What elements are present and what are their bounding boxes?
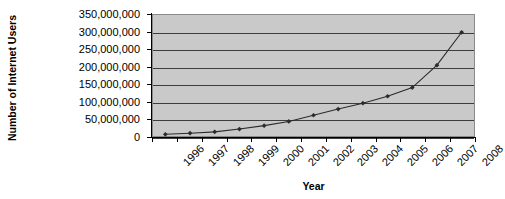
y-axis-tick-label: 150,000,000: [79, 79, 140, 90]
data-point-marker: [286, 119, 291, 124]
y-axis-tickmark: [147, 14, 151, 15]
x-axis-tickmark: [202, 138, 203, 142]
data-series-line: [153, 15, 474, 136]
y-axis-tick-label: 100,000,000: [79, 96, 140, 107]
x-axis-tick-label: 1997: [206, 143, 231, 168]
x-axis-tickmark: [450, 138, 451, 142]
x-axis-tick-label: 2002: [331, 143, 356, 168]
x-axis-tick-label: 2007: [455, 143, 480, 168]
y-axis-tickmark: [147, 49, 151, 50]
x-axis-tickmark: [351, 138, 352, 142]
x-axis-tick-label: 2006: [430, 143, 455, 168]
x-axis-tickmark: [152, 138, 153, 142]
x-axis-tickmark: [425, 138, 426, 142]
data-point-marker: [385, 94, 390, 99]
x-axis-tick-label: 1998: [231, 143, 256, 168]
x-axis-line: [151, 137, 476, 138]
y-axis-tickmark: [147, 102, 151, 103]
x-axis-tickmark: [326, 138, 327, 142]
x-axis-tick-label: 2004: [380, 143, 405, 168]
data-point-marker: [212, 129, 217, 134]
x-axis-tickmark: [301, 138, 302, 142]
x-axis-tick-label: 2005: [405, 143, 430, 168]
x-axis-tickmark: [177, 138, 178, 142]
y-axis-tickmark: [147, 32, 151, 33]
y-axis-title-label: Number of Internet Users: [6, 14, 18, 140]
x-axis-tick-label: 2000: [281, 143, 306, 168]
x-axis-tickmark: [276, 138, 277, 142]
data-point-marker: [360, 101, 365, 106]
data-point-marker: [163, 132, 168, 137]
series-line: [165, 32, 461, 134]
data-point-marker: [311, 113, 316, 118]
x-axis-tick-label: 2003: [356, 143, 381, 168]
plot-area: [152, 14, 475, 137]
data-point-marker: [237, 127, 242, 132]
x-axis-tickmark: [400, 138, 401, 142]
y-axis-tick-labels: 050,000,000100,000,000150,000,000200,000…: [26, 0, 144, 155]
y-axis-line: [151, 13, 152, 138]
x-axis-tick-label: 2008: [480, 143, 505, 168]
x-axis-tickmark: [251, 138, 252, 142]
data-point-marker: [262, 123, 267, 128]
y-axis-tick-label: 300,000,000: [79, 26, 140, 37]
x-axis-tickmark: [475, 138, 476, 142]
x-axis-tick-label: 1999: [256, 143, 281, 168]
x-axis-title: Year: [152, 180, 475, 192]
y-axis-tick-label: 0: [134, 132, 140, 143]
data-point-marker: [188, 131, 193, 136]
y-axis-title: Number of Internet Users: [0, 0, 24, 155]
y-axis-tick-label: 200,000,000: [79, 61, 140, 72]
x-axis-tickmark: [376, 138, 377, 142]
x-axis-tickmark: [227, 138, 228, 142]
y-axis-tick-label: 50,000,000: [85, 114, 140, 125]
y-axis-tickmark: [147, 137, 151, 138]
x-axis-tick-label: 2001: [306, 143, 331, 168]
x-axis-tick-labels: 1996199719981999200020012002200320042005…: [0, 143, 488, 179]
y-axis-tickmark: [147, 119, 151, 120]
data-point-marker: [336, 107, 341, 112]
x-axis-tick-label: 1996: [182, 143, 207, 168]
y-axis-tick-label: 350,000,000: [79, 9, 140, 20]
y-axis-tickmark: [147, 67, 151, 68]
y-axis-tickmark: [147, 84, 151, 85]
y-axis-tick-label: 250,000,000: [79, 44, 140, 55]
